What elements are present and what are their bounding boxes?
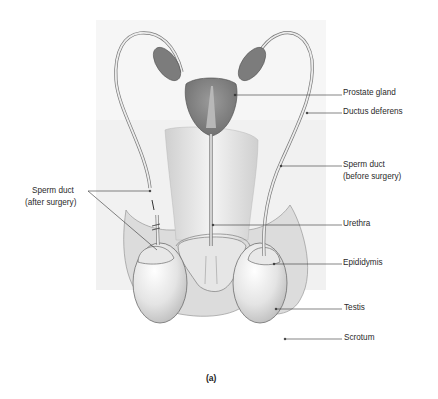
label-sperm-duct-after-line1: Sperm duct: [32, 186, 74, 196]
label-scrotum: Scrotum: [344, 333, 374, 343]
label-testis: Testis: [344, 303, 365, 313]
label-ductus-deferens: Ductus deferens: [343, 107, 403, 117]
label-prostate-gland: Prostate gland: [343, 88, 396, 98]
figure-caption: (a): [206, 373, 216, 383]
label-urethra: Urethra: [343, 219, 370, 229]
label-sperm-duct-after-line2: (after surgery): [25, 198, 76, 208]
label-sperm-duct-before-line1: Sperm duct: [343, 160, 385, 170]
label-epididymis: Epididymis: [343, 258, 383, 268]
label-sperm-duct-before-line2: (before surgery): [343, 172, 401, 182]
